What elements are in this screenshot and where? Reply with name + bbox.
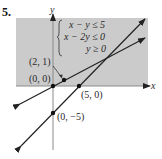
point-0-0 — [51, 84, 55, 88]
x-axis-label: x — [150, 80, 156, 91]
point-2-1 — [62, 78, 66, 82]
label-point-0-neg5: (0, −5) — [57, 111, 84, 123]
inequality-1: x − y ≤ 5 — [68, 19, 105, 30]
graph-figure: 5. y x x − y ≤ 5 x − 2y ≤ 0 y ≥ 0 (2, 1)… — [0, 0, 162, 159]
point-5-0 — [77, 84, 81, 88]
point-0-neg5 — [51, 111, 55, 115]
inequality-3: y ≥ 0 — [85, 43, 106, 54]
problem-number: 5. — [2, 5, 11, 19]
inequality-2: x − 2y ≤ 0 — [63, 31, 105, 42]
label-point-5-0: (5, 0) — [81, 89, 103, 101]
label-point-0-0: (0, 0) — [29, 73, 51, 85]
y-axis-label: y — [49, 4, 55, 15]
label-point-2-1: (2, 1) — [29, 56, 51, 68]
